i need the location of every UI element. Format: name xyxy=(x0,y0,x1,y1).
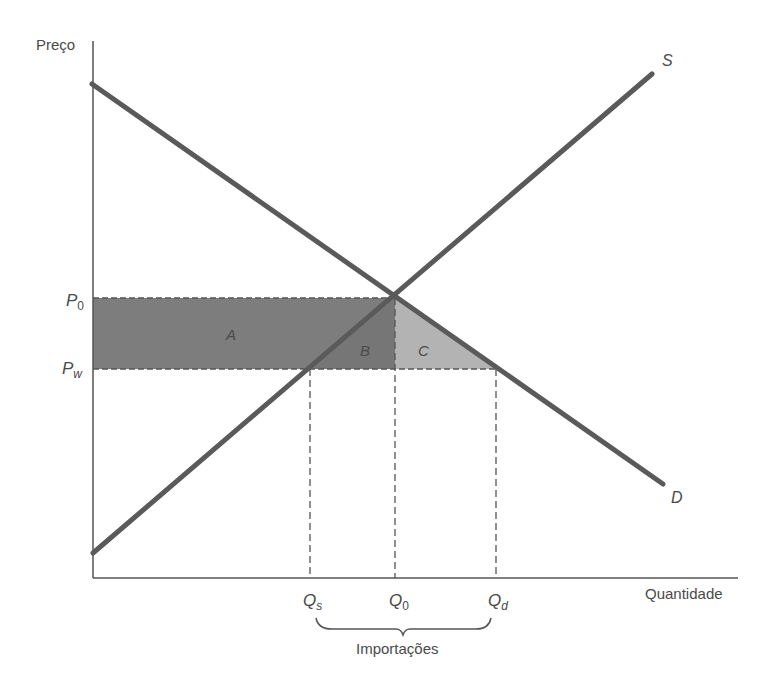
pw-label: Pw xyxy=(62,359,83,381)
area-c-label: C xyxy=(418,342,429,359)
demand-curve xyxy=(92,84,663,484)
y-axis-label: Preço xyxy=(36,36,75,53)
p0-label: P0 xyxy=(66,291,84,313)
qd-label: Qd xyxy=(488,591,508,613)
area-a-label: A xyxy=(225,326,236,343)
qs-label: Qs xyxy=(303,591,322,613)
area-b-label: B xyxy=(360,342,370,359)
q0-label: Q0 xyxy=(389,591,409,613)
imports-label: Importações xyxy=(356,640,439,657)
imports-brace xyxy=(316,618,491,635)
x-axis-label: Quantidade xyxy=(645,585,723,602)
demand-label: D xyxy=(671,489,683,506)
supply-label: S xyxy=(662,52,673,69)
economics-diagram: Preço Quantidade S D P0 Pw A B C Qs Q0 Q… xyxy=(0,0,777,689)
